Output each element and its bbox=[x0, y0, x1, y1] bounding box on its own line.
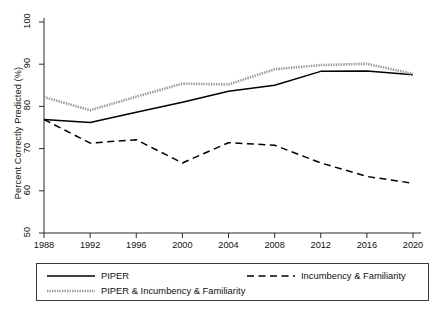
y-tick-label: 60 bbox=[22, 179, 32, 201]
y-tick-label: 70 bbox=[22, 137, 32, 159]
chart-legend: PIPERIncumbency & FamiliarityPIPER & Inc… bbox=[36, 263, 429, 301]
legend-line-sample-2 bbox=[47, 288, 95, 294]
x-tick-label: 2008 bbox=[255, 240, 295, 250]
legend-label-0: PIPER bbox=[101, 270, 129, 281]
legend-line-sample-1 bbox=[247, 273, 295, 279]
legend-line-sample-0 bbox=[47, 273, 95, 279]
x-tick-label: 2012 bbox=[301, 240, 341, 250]
x-tick-label: 2016 bbox=[347, 240, 387, 250]
x-tick-label: 1996 bbox=[116, 240, 156, 250]
legend-label-2: PIPER & Incumbency & Familiarity bbox=[101, 285, 245, 296]
x-tick-label: 1988 bbox=[24, 240, 64, 250]
x-tick-label: 2000 bbox=[162, 240, 202, 250]
axis-spine bbox=[44, 18, 421, 233]
y-tick-label: 100 bbox=[22, 10, 32, 32]
x-tick-label: 1992 bbox=[70, 240, 110, 250]
x-tick-label: 2004 bbox=[209, 240, 249, 250]
series-line-1 bbox=[44, 119, 413, 183]
x-tick-label: 2020 bbox=[393, 240, 433, 250]
series-line-0 bbox=[44, 71, 413, 122]
legend-label-1: Incumbency & Familiarity bbox=[301, 270, 406, 281]
y-tick-label: 80 bbox=[22, 94, 32, 116]
chart-figure: Percent Correctly Predicted (%) 50607080… bbox=[0, 0, 438, 309]
y-tick-label: 90 bbox=[22, 52, 32, 74]
